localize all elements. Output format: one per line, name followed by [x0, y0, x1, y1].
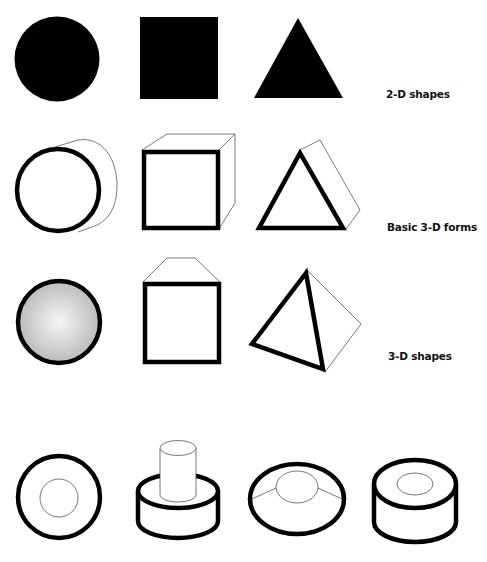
filled-triangle — [254, 18, 343, 98]
label-2d-shapes: 2-D shapes — [386, 88, 450, 100]
hollow-cylinder — [374, 460, 456, 542]
row-2d-shapes — [15, 17, 344, 102]
label-3d-shapes: 3-D shapes — [388, 350, 452, 362]
row-basic-3d-forms — [17, 134, 360, 232]
label-basic-3d-forms: Basic 3-D forms — [387, 221, 477, 233]
tetrahedron — [252, 270, 361, 372]
cylinder-with-peg — [138, 441, 218, 539]
triangular-prism — [259, 140, 360, 229]
cylinder — [17, 140, 117, 232]
filled-square — [140, 17, 218, 99]
filled-circle — [15, 17, 100, 102]
box-with-beveled-top — [143, 258, 220, 362]
shapes-diagram — [0, 0, 487, 562]
sphere — [18, 281, 100, 363]
ring-top-view — [18, 456, 100, 538]
dome-with-cap — [250, 464, 344, 534]
row-composite-objects — [18, 441, 456, 543]
row-3d-shapes — [18, 258, 361, 372]
cube — [142, 134, 235, 229]
